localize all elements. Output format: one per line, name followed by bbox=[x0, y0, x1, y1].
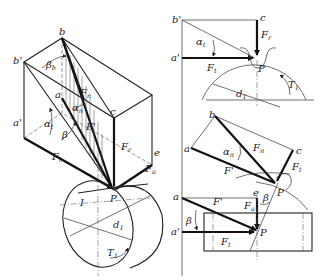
top-label-a: a bbox=[173, 191, 179, 202]
nv-alpha-n-arc bbox=[238, 146, 241, 160]
gear-force-diagram: b b' βb a Fn αn c a' αt F' β Fr Ft e Fa … bbox=[0, 0, 322, 280]
label-Ft: Ft bbox=[51, 151, 62, 164]
label-Fr: Fr bbox=[120, 141, 132, 154]
nv-label-P: P bbox=[276, 187, 284, 198]
top-beta-arc bbox=[195, 210, 197, 230]
tv-label-P: P bbox=[257, 63, 265, 74]
label-b: b bbox=[59, 26, 65, 37]
tv-label-c: c bbox=[260, 12, 266, 23]
nv-line-b-a bbox=[191, 116, 215, 148]
nv-label-a: a bbox=[184, 143, 190, 154]
tv-alpha-t-arc bbox=[213, 40, 215, 56]
transverse-labels: b' c Fr αt a' Ft P d1 T1 bbox=[171, 12, 299, 101]
label-P: P bbox=[109, 193, 117, 204]
normal-view bbox=[191, 116, 293, 190]
top-label-beta-top: β bbox=[262, 192, 269, 203]
label-I: I bbox=[79, 197, 85, 208]
nv-label-F-prime: F' bbox=[223, 165, 234, 176]
top-label-Ft: Ft bbox=[220, 236, 231, 249]
tv-label-a-prime: a' bbox=[171, 52, 180, 63]
label-alpha-n: αn bbox=[72, 102, 83, 115]
label-a-prime: a' bbox=[13, 117, 22, 128]
top-label-P: P bbox=[259, 227, 267, 238]
nv-label-b: b bbox=[209, 109, 215, 120]
tv-label-alpha-t: αt bbox=[196, 36, 206, 49]
nv-label-Ft: Ft bbox=[291, 161, 302, 174]
top-label-e: e bbox=[253, 187, 259, 198]
gear-top-edge bbox=[112, 186, 134, 188]
top-label-beta-left: β bbox=[185, 215, 192, 226]
top-label-F-prime: F' bbox=[212, 196, 223, 207]
gear-axis-diag bbox=[60, 198, 150, 205]
top-label-Fa: Fa bbox=[243, 200, 255, 213]
label-Fa: Fa bbox=[144, 163, 156, 176]
top-label-a-prime: a' bbox=[171, 226, 180, 237]
tv-label-Ft: Ft bbox=[206, 62, 217, 75]
force-Ft-nv bbox=[277, 150, 293, 181]
label-c: c bbox=[110, 106, 116, 117]
tv-diag-bprime-P bbox=[182, 20, 255, 58]
label-a: a bbox=[55, 89, 61, 100]
top-view bbox=[182, 182, 312, 260]
label-d1: d1 bbox=[113, 219, 124, 232]
label-b-prime: b' bbox=[13, 55, 22, 66]
label-F-prime: F' bbox=[85, 121, 96, 132]
transverse-view bbox=[182, 20, 314, 276]
label-beta-b: βb bbox=[45, 59, 56, 72]
nv-label-alpha-n: αn bbox=[223, 146, 234, 159]
isometric-view bbox=[24, 38, 163, 276]
label-e: e bbox=[154, 147, 160, 158]
tv-label-d1: d1 bbox=[236, 88, 247, 101]
label-Fn: Fn bbox=[79, 87, 91, 100]
tv-label-Fr: Fr bbox=[260, 29, 272, 42]
line-bprime-P bbox=[24, 62, 114, 190]
tv-label-b-prime: b' bbox=[172, 14, 181, 25]
nv-label-Fn: Fn bbox=[252, 142, 264, 155]
label-beta: β bbox=[61, 129, 68, 140]
nv-label-c: c bbox=[296, 145, 302, 156]
